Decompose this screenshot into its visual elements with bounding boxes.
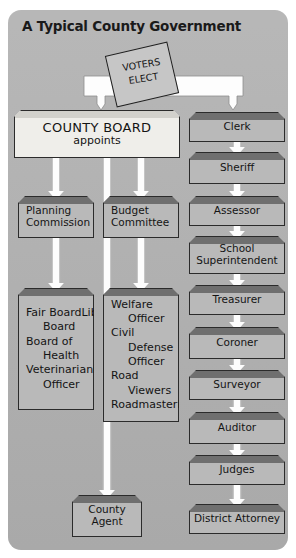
box-top-bevel [190, 328, 284, 335]
box-top-bevel [190, 113, 284, 120]
elected-office-treasurer-label: Treasurer [210, 294, 265, 306]
ballot-line-2: ELECT [128, 70, 159, 86]
box-top-bevel [19, 197, 93, 204]
connector-board-budget [133, 156, 149, 200]
elected-office-treasurer: Treasurer [189, 285, 285, 315]
appointed-county-agent-label: CountyAgent [85, 504, 128, 528]
appointed-budget-committee: BudgetCommittee [103, 196, 179, 238]
county-government-org-chart: A Typical County Government ClerkSheriff… [0, 0, 296, 558]
elected-office-school-superintendent: SchoolSuperintendent [189, 236, 285, 274]
connector-stem [52, 156, 61, 192]
elected-office-judges: Judges [189, 455, 285, 485]
connector-stem [137, 156, 146, 192]
elected-office-assessor: Assessor [189, 196, 285, 226]
connector-stem [137, 236, 146, 284]
county-board-subtitle: appoints [73, 134, 121, 147]
box-top-bevel [104, 289, 178, 296]
elected-office-judges-label: Judges [216, 464, 257, 476]
box-top-bevel [190, 505, 284, 512]
appointed-list-middle: WelfareOfficerCivilDefenseOfficerRoadVie… [103, 288, 179, 422]
county-board-box-label: COUNTY BOARDappoints [40, 121, 155, 148]
box-top-bevel [190, 371, 284, 378]
county-board-title: COUNTY BOARD [43, 120, 152, 135]
elected-office-coroner-label: Coroner [213, 337, 261, 349]
elected-office-auditor: Auditor [189, 412, 285, 444]
connector-budget-list [133, 236, 149, 292]
box-top-bevel [19, 289, 93, 296]
elected-office-school-superintendent-label: SchoolSuperintendent [193, 243, 280, 267]
box-top-bevel [190, 413, 284, 420]
elected-office-coroner: Coroner [189, 327, 285, 359]
elected-office-surveyor: Surveyor [189, 370, 285, 400]
county-board-box: COUNTY BOARDappoints [14, 110, 180, 158]
box-top-bevel [190, 153, 284, 160]
elected-office-clerk-label: Clerk [220, 121, 253, 133]
elected-office-surveyor-label: Surveyor [210, 379, 263, 391]
elected-office-district-attorney: District Attorney [189, 504, 285, 534]
connector-planning-list [48, 236, 64, 292]
box-top-bevel [190, 197, 284, 204]
elected-office-sheriff-label: Sheriff [217, 162, 257, 174]
box-top-bevel [190, 286, 284, 293]
elected-office-district-attorney-label: District Attorney [191, 513, 283, 525]
appointed-list-left: Fair BoardLibraryBoardBoard ofHealthVete… [18, 288, 94, 410]
connector-stem [52, 236, 61, 284]
appointed-planning-commission-label: PlanningCommission [19, 205, 93, 229]
box-top-bevel [15, 111, 179, 118]
elected-office-assessor-label: Assessor [211, 205, 263, 217]
box-top-bevel [73, 496, 141, 503]
appointed-county-agent: CountyAgent [72, 495, 142, 537]
box-top-bevel [104, 197, 178, 204]
elected-office-clerk: Clerk [189, 112, 285, 142]
box-top-bevel [190, 456, 284, 463]
appointed-budget-committee-label: BudgetCommittee [104, 205, 172, 229]
connector-board-planning [48, 156, 64, 200]
appointed-planning-commission: PlanningCommission [18, 196, 94, 238]
elected-office-sheriff: Sheriff [189, 152, 285, 184]
elected-office-auditor-label: Auditor [215, 422, 259, 434]
